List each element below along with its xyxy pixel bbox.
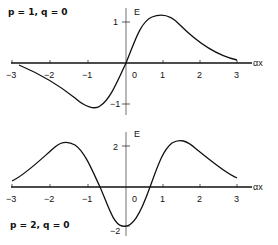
top-ytick-m1: −1 [110,99,120,109]
top-xtick: 3 [234,70,239,80]
bottom-plot: p = 2, q = 0 E 2 −2 αx −3 −2 −1 0 1 2 3 [6,129,263,236]
bottom-ytick-2: 2 [113,142,118,152]
figure: p = 1, q = 0 E 1 −1 αx −3 −2 −1 0 1 2 3 … [0,0,278,245]
top-xlabel: αx [253,58,263,68]
bottom-title: p = 2, q = 0 [10,220,70,230]
bottom-curve [12,141,237,227]
bottom-xtick: −3 [6,194,16,204]
top-plot: p = 1, q = 0 E 1 −1 αx −3 −2 −1 0 1 2 3 [6,7,263,115]
bottom-xtick: 1 [160,194,165,204]
top-xtick: −3 [6,70,16,80]
top-xtick: −2 [44,70,54,80]
bottom-xtick: 2 [197,194,202,204]
top-xtick: 2 [197,70,202,80]
top-ylabel: E [134,7,140,17]
top-xtick: 1 [160,70,165,80]
top-title: p = 1, q = 0 [8,7,68,17]
bottom-ylabel: E [134,129,140,139]
bottom-xtick: 3 [234,194,239,204]
top-xtick: −1 [82,70,92,80]
top-xtick: 0 [132,70,137,80]
bottom-ytick-m2: −2 [110,226,120,236]
bottom-xlabel: αx [253,182,263,192]
top-ytick-1: 1 [113,17,118,27]
bottom-xtick: −1 [82,194,92,204]
top-curve [19,15,237,107]
bottom-xtick: 0 [132,194,137,204]
bottom-xtick: −2 [44,194,54,204]
